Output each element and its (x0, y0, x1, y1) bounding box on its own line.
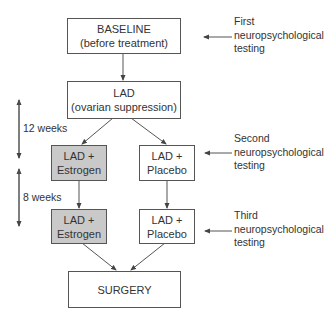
node-surgery: SURGERY (68, 271, 181, 308)
node-lad-title: LAD (113, 86, 134, 100)
node-label-line1: LAD + (152, 149, 183, 163)
duration-label-8-weeks: 8 weeks (23, 191, 62, 203)
node-label-line2: Placebo (147, 227, 187, 241)
node-baseline-title: BASELINE (97, 22, 151, 36)
node-lad-subtitle: (ovarian suppression) (71, 100, 177, 114)
arrow-placebo-to-surgery (131, 243, 165, 270)
node-baseline-subtitle: (before treatment) (80, 36, 168, 50)
label-line: First (234, 15, 324, 29)
node-lad-placebo-1: LAD + Placebo (139, 145, 195, 181)
node-label-line1: LAD + (64, 149, 95, 163)
node-label-line2: Estrogen (57, 163, 101, 177)
first-testing-label: First neuropsychological testing (234, 15, 324, 56)
arrow-estrogen-to-surgery (82, 243, 116, 270)
node-lad-estrogen-2: LAD + Estrogen (51, 209, 107, 244)
second-testing-label: Second neuropsychological testing (234, 132, 324, 173)
node-lad-estrogen-1: LAD + Estrogen (51, 145, 107, 181)
third-testing-label: Third neuropsychological testing (234, 209, 324, 250)
arrow-lad-to-estrogen (82, 118, 113, 144)
arrow-lad-to-placebo (131, 118, 166, 144)
duration-label-12-weeks: 12 weeks (23, 122, 67, 134)
node-baseline: BASELINE (before treatment) (67, 18, 181, 54)
node-lad-placebo-2: LAD + Placebo (139, 209, 195, 244)
node-surgery-title: SURGERY (97, 283, 151, 297)
label-line: testing (234, 42, 324, 56)
node-label-line1: LAD + (152, 213, 183, 227)
label-line: testing (234, 159, 324, 173)
node-lad: LAD (ovarian suppression) (67, 81, 181, 119)
label-line: Second (234, 132, 324, 146)
node-label-line1: LAD + (64, 213, 95, 227)
node-label-line2: Estrogen (57, 227, 101, 241)
label-line: Third (234, 209, 324, 223)
study-design-diagram: BASELINE (before treatment) LAD (ovarian… (0, 0, 332, 311)
label-line: neuropsychological (234, 223, 324, 237)
node-label-line2: Placebo (147, 163, 187, 177)
label-line: neuropsychological (234, 146, 324, 160)
label-line: testing (234, 236, 324, 250)
label-line: neuropsychological (234, 29, 324, 43)
